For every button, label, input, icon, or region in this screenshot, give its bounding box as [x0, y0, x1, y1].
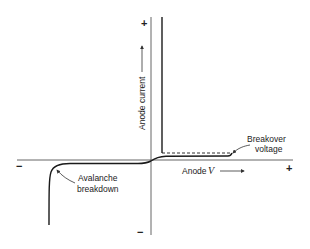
avalanche-label-line1: Avalanche [78, 173, 118, 183]
breakover-label-line2: voltage [255, 144, 283, 154]
y-axis-label: Anode current [137, 76, 147, 130]
y-positive-sign: + [141, 17, 147, 29]
y-negative-sign: − [137, 226, 143, 238]
breakover-label-line1: Breakover [247, 134, 286, 144]
x-axis-label-prefix: Anode [182, 166, 207, 176]
iv-characteristic-diagram: + − − + Anode current Anode V Breakover … [0, 0, 310, 249]
avalanche-pointer-arrow [57, 170, 75, 183]
x-axis-label-var: V [208, 165, 216, 176]
x-negative-sign: − [16, 160, 22, 172]
diagram-canvas: + − − + Anode current Anode V Breakover … [0, 0, 310, 249]
x-positive-sign: + [286, 162, 292, 174]
avalanche-label-line2: breakdown [77, 184, 119, 194]
breakover-pointer-arrow [233, 145, 250, 153]
